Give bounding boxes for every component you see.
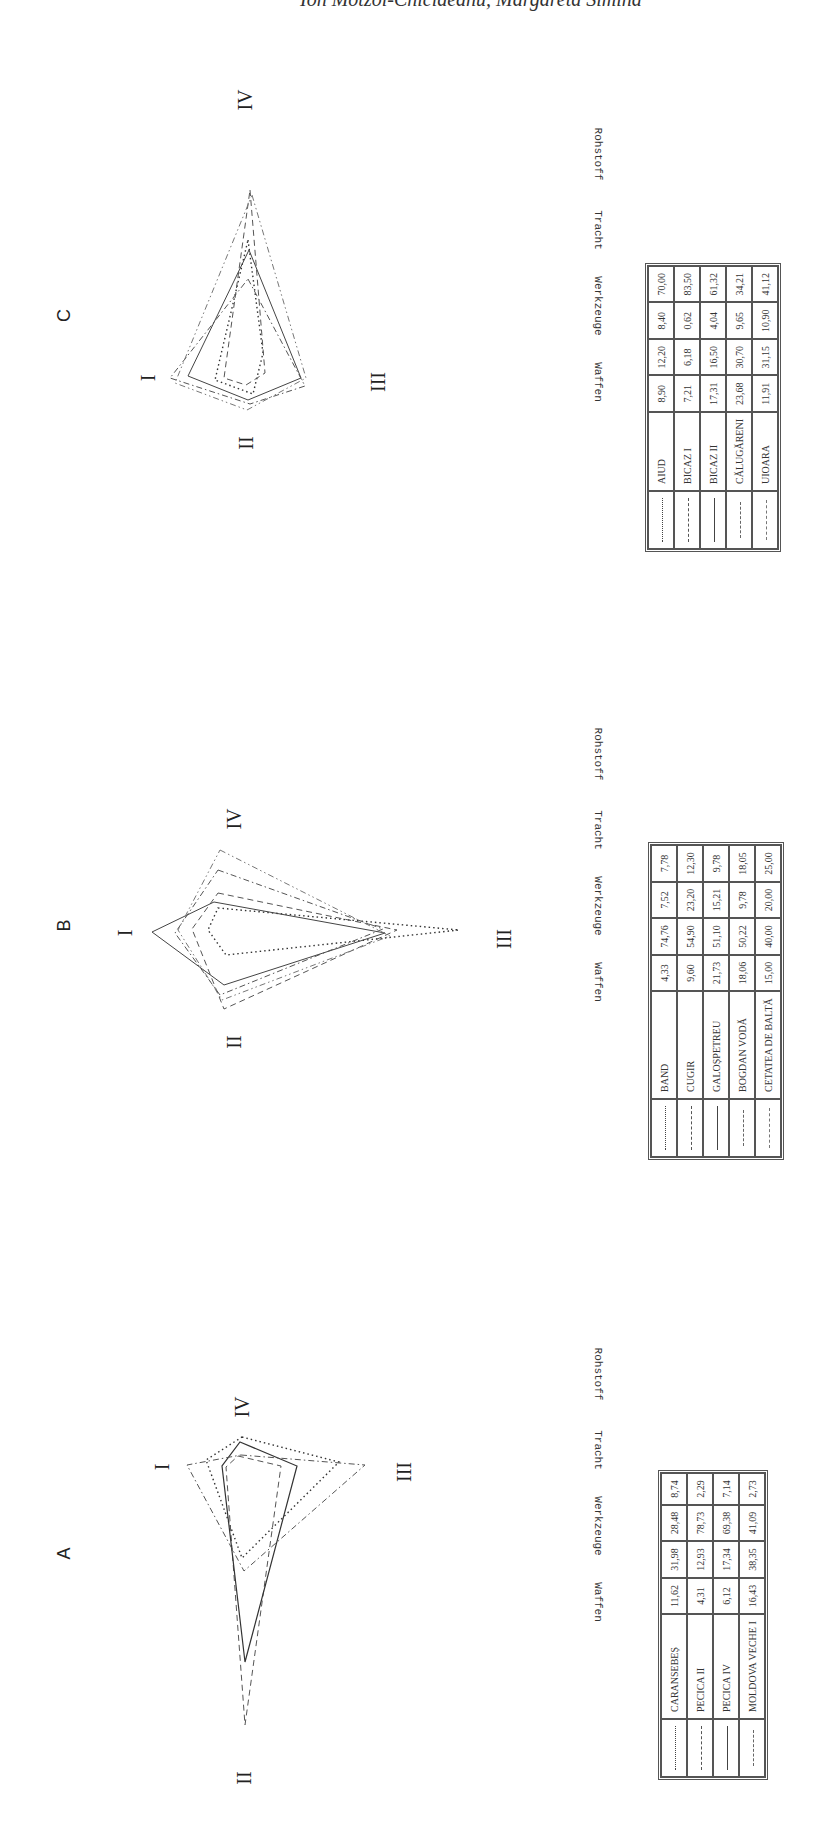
table-row: CĂLUGĂRENI 23,68 30,70 9,65 34,21	[726, 266, 752, 549]
table-row: CARANSEBEȘ 11,62 31,98 28,48 8,74	[661, 1473, 687, 1777]
radar-c-bicaz-ii	[188, 250, 301, 400]
radar-b	[152, 850, 459, 1009]
radar-b-band	[208, 908, 459, 955]
column-header-rohstoff: Rohstoff	[592, 716, 604, 792]
legend-dash-dot-line	[753, 1730, 754, 1766]
table-row: BOGDAN VODĂ 18,06 50,22 9,78 18,05	[729, 845, 755, 1157]
site-name: CUGIR	[677, 991, 703, 1099]
legend-dotted-line	[665, 1106, 666, 1150]
table-row: MOLDOVA VECHE I 16,43 38,35 41,09 2,73	[739, 1473, 765, 1777]
column-header-tracht: Tracht	[592, 792, 604, 868]
legend-dotted-line	[662, 498, 663, 542]
column-header-werkzeuge: Werkzeuge	[592, 868, 604, 944]
column-header-rohstoff: Rohstoff	[592, 1336, 604, 1412]
legend-dash-dot-line	[740, 502, 741, 538]
column-headers-b: Waffen Werkzeuge Tracht Rohstoff	[592, 716, 604, 1020]
table-row: BAND 4,33 74,76 7,52 7,78	[651, 845, 677, 1157]
site-name: MOLDOVA VECHE I	[739, 1614, 765, 1719]
radar-c-bicaz-i	[224, 190, 265, 385]
radar-a-moldova-veche	[187, 1455, 365, 1571]
site-name: AIUD	[648, 412, 674, 491]
table-a: CARANSEBEȘ 11,62 31,98 28,48 8,74 PECICA…	[658, 1470, 768, 1780]
table-row: GALOȘPETREU 21,73 51,10 15,21 9,78	[703, 845, 729, 1157]
legend-dotted-line	[675, 1726, 676, 1770]
site-name: CETATEA DE BALTĂ	[755, 991, 781, 1099]
table-row: PECICA II 4,31 12,93 78,73 2,29	[687, 1473, 713, 1777]
table-row: UIOARA 11,91 31,15 10,90 41,12	[752, 266, 778, 549]
table-row: BICAZ I 7,21 6,18 0,62 83,50	[674, 266, 700, 549]
column-header-waffen: Waffen	[592, 1564, 604, 1640]
site-name: BICAZ II	[700, 412, 726, 491]
radar-b-cetatea	[178, 850, 390, 1000]
legend-dashed-line	[701, 1726, 702, 1770]
column-headers-a: Waffen Werkzeuge Tracht Rohstoff	[592, 1336, 604, 1640]
legend-dash-dot-dot-line	[766, 500, 767, 540]
column-header-rohstoff: Rohstoff	[592, 116, 604, 192]
radar-b-cugir	[192, 893, 397, 1009]
radar-a	[187, 1437, 365, 1725]
radar-c-uioara	[175, 195, 306, 410]
site-name: PECICA IV	[713, 1614, 739, 1719]
table-row: AIUD 8,90 12,20 8,40 70,00	[648, 266, 674, 549]
legend-dash-dot-dot-line	[769, 1108, 770, 1148]
table-row: PECICA IV 6,12 17,34 69,38 7,14	[713, 1473, 739, 1777]
site-name: CARANSEBEȘ	[661, 1614, 687, 1719]
table-row: CETATEA DE BALTĂ 15,00 40,00 20,00 25,00	[755, 845, 781, 1157]
site-name: BICAZ I	[674, 412, 700, 491]
radar-a-pecica-ii	[226, 1456, 281, 1725]
column-header-waffen: Waffen	[592, 344, 604, 420]
legend-dashed-line	[691, 1106, 692, 1150]
radar-b-bogdan-voda	[175, 870, 383, 995]
column-headers-c: Waffen Werkzeuge Tracht Rohstoff	[592, 116, 604, 420]
legend-solid-line	[727, 1726, 728, 1770]
site-name: CĂLUGĂRENI	[726, 412, 752, 491]
site-name: UIOARA	[752, 412, 778, 491]
legend-solid-line	[714, 498, 715, 542]
column-header-waffen: Waffen	[592, 944, 604, 1020]
column-header-tracht: Tracht	[592, 192, 604, 268]
site-name: PECICA II	[687, 1614, 713, 1719]
column-header-werkzeuge: Werkzeuge	[592, 268, 604, 344]
site-name: GALOȘPETREU	[703, 991, 729, 1099]
legend-dashed-line	[688, 498, 689, 542]
site-name: BAND	[651, 991, 677, 1099]
column-header-tracht: Tracht	[592, 1412, 604, 1488]
table-c: AIUD 8,90 12,20 8,40 70,00 BICAZ I 7,21 …	[645, 263, 781, 552]
legend-solid-line	[717, 1106, 718, 1150]
table-b: BAND 4,33 74,76 7,52 7,78 CUGIR 9,60 54,…	[648, 842, 784, 1160]
table-row: BICAZ II 17,31 16,50 4,04 61,32	[700, 266, 726, 549]
site-name: BOGDAN VODĂ	[729, 991, 755, 1099]
column-header-werkzeuge: Werkzeuge	[592, 1488, 604, 1564]
table-row: CUGIR 9,60 54,90 23,20 12,30	[677, 845, 703, 1157]
legend-dash-dot-line	[743, 1110, 744, 1146]
radar-c	[170, 190, 306, 410]
